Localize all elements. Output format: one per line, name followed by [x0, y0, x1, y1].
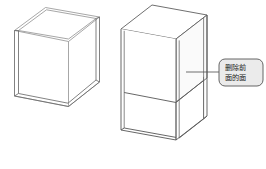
right-box-bottom-front-right-inner	[179, 119, 204, 138]
left-box-bottom-rim-inner	[19, 80, 97, 103]
left-box-bottom-right-cap	[96, 80, 100, 82]
left-box-bottom-rim-outer	[15, 82, 100, 107]
callout-text-line-1: 删除前	[225, 63, 246, 72]
left-box-bottom-left-cap	[15, 94, 19, 97]
right-box-left-side-face-fill	[121, 29, 176, 140]
callout-text-line-2: 面的面	[225, 73, 246, 82]
left-box-wireframe	[15, 7, 100, 107]
right-box-solid	[121, 5, 207, 140]
right-box-bottom-right-cap	[204, 116, 207, 119]
diagram-canvas: 删除前 面的面	[0, 0, 266, 169]
isometric-box-diagram: 删除前 面的面	[0, 0, 266, 169]
